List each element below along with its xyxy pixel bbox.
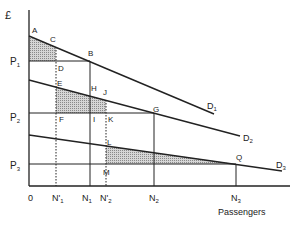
quantity-label-n2-prime: N'2 xyxy=(100,193,112,204)
point-label-q: Q xyxy=(236,153,242,162)
price-label-p3: P3 xyxy=(10,160,21,172)
quantity-label-n2: N2 xyxy=(149,193,160,204)
point-label-a: A xyxy=(32,26,38,35)
quantity-label-n3: N3 xyxy=(231,193,242,204)
point-label-d: D xyxy=(58,64,64,73)
x-axis-label: Passengers xyxy=(218,207,266,217)
demand-label-d3: D3 xyxy=(276,160,287,171)
point-label-b: B xyxy=(88,49,93,58)
point-label-l: L xyxy=(107,138,112,147)
origin-label: 0 xyxy=(28,193,33,203)
price-label-p1: P1 xyxy=(10,56,21,68)
point-label-i: I xyxy=(93,115,95,124)
demand-label-d1: D1 xyxy=(207,101,218,112)
y-axis-label: £ xyxy=(5,9,11,21)
quantity-label-n1-prime: N'1 xyxy=(52,193,64,204)
point-label-c: C xyxy=(50,35,56,44)
price-label-p2: P2 xyxy=(10,112,21,124)
demand-label-d2: D2 xyxy=(243,133,254,144)
point-label-k: K xyxy=(108,115,114,124)
point-label-m: M xyxy=(103,168,110,177)
point-label-e: E xyxy=(57,79,62,88)
point-label-h: H xyxy=(91,84,97,93)
quantity-label-n1: N1 xyxy=(82,193,93,204)
point-label-f: F xyxy=(59,115,64,124)
price-discrimination-diagram: £ 0 Passengers P1 P2 P3 N'1 N1 N'2 N2 N3… xyxy=(0,0,296,225)
point-label-g: G xyxy=(153,105,159,114)
shaded-area-EJKF xyxy=(56,87,106,113)
point-label-j: J xyxy=(103,88,107,97)
